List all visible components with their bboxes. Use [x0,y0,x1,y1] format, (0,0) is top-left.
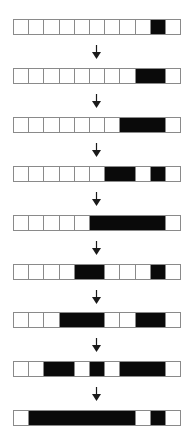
filled-cell [60,362,75,376]
down-arrow-icon [92,338,101,352]
empty-cell [90,20,105,34]
filled-cell [105,167,120,181]
filled-cell [90,313,105,327]
empty-cell [60,216,75,230]
filled-cell [151,362,166,376]
empty-cell [166,411,180,425]
filled-cell [151,216,166,230]
filled-cell [105,216,120,230]
filled-cell [44,362,59,376]
empty-cell [44,313,59,327]
empty-cell [120,313,135,327]
empty-cell [29,118,44,132]
empty-cell [136,265,151,279]
empty-cell [14,313,29,327]
empty-cell [44,20,59,34]
cell-strip-row-5 [13,215,181,231]
empty-cell [29,362,44,376]
empty-cell [90,167,105,181]
empty-cell [44,216,59,230]
filled-cell [136,118,151,132]
filled-cell [151,20,166,34]
filled-cell [75,265,90,279]
empty-cell [90,118,105,132]
filled-cell [90,265,105,279]
empty-cell [44,118,59,132]
empty-cell [166,20,180,34]
empty-cell [120,20,135,34]
cell-strip-row-9 [13,410,181,426]
filled-cell [136,313,151,327]
filled-cell [120,216,135,230]
cell-strip-row-2 [13,68,181,84]
cell-strip-row-8 [13,361,181,377]
empty-cell [60,167,75,181]
empty-cell [105,20,120,34]
filled-cell [151,265,166,279]
empty-cell [14,265,29,279]
empty-cell [75,167,90,181]
empty-cell [60,265,75,279]
empty-cell [44,167,59,181]
down-arrow-icon [92,192,101,206]
filled-cell [90,362,105,376]
filled-cell [120,362,135,376]
empty-cell [29,167,44,181]
empty-cell [14,411,29,425]
down-arrow-icon [92,387,101,401]
down-arrow-icon [92,143,101,157]
empty-cell [14,167,29,181]
empty-cell [166,69,180,83]
filled-cell [136,362,151,376]
empty-cell [166,167,180,181]
empty-cell [166,313,180,327]
empty-cell [166,265,180,279]
filled-cell [120,167,135,181]
empty-cell [29,216,44,230]
empty-cell [60,69,75,83]
empty-cell [29,20,44,34]
empty-cell [29,313,44,327]
cell-strip-row-6 [13,264,181,280]
cell-strip-row-3 [13,117,181,133]
empty-cell [29,69,44,83]
cell-strip-row-1 [13,19,181,35]
down-arrow-icon [92,45,101,59]
filled-cell [44,411,59,425]
empty-cell [166,362,180,376]
empty-cell [75,20,90,34]
empty-cell [105,118,120,132]
empty-cell [29,265,44,279]
empty-cell [166,118,180,132]
filled-cell [90,216,105,230]
filled-cell [151,69,166,83]
filled-cell [151,118,166,132]
filled-cell [120,118,135,132]
filled-cell [60,313,75,327]
down-arrow-icon [92,94,101,108]
filled-cell [29,411,44,425]
filled-cell [151,167,166,181]
empty-cell [166,216,180,230]
empty-cell [136,167,151,181]
empty-cell [14,362,29,376]
empty-cell [90,69,105,83]
empty-cell [75,216,90,230]
down-arrow-icon [92,290,101,304]
empty-cell [105,313,120,327]
filled-cell [60,411,75,425]
empty-cell [105,265,120,279]
filled-cell [151,411,166,425]
empty-cell [105,69,120,83]
cell-strip-row-4 [13,166,181,182]
filled-cell [120,411,135,425]
empty-cell [136,411,151,425]
empty-cell [14,20,29,34]
filled-cell [105,411,120,425]
empty-cell [60,20,75,34]
filled-cell [90,411,105,425]
empty-cell [75,118,90,132]
empty-cell [44,265,59,279]
empty-cell [75,69,90,83]
filled-cell [75,411,90,425]
